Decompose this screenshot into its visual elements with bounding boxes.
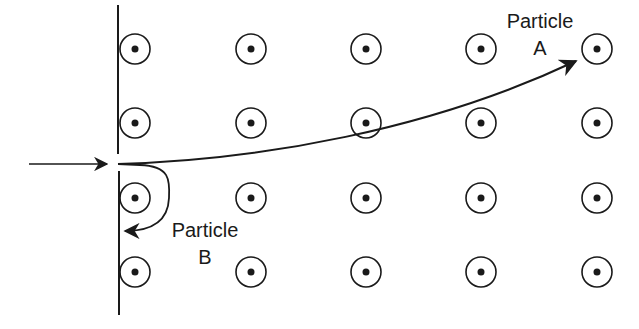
field-out-of-page-icon: [236, 183, 266, 213]
field-out-of-page-icon: [120, 108, 150, 138]
field-out-of-page-icon: [582, 34, 612, 64]
field-out-of-page-icon: [120, 34, 150, 64]
magnetic-field-diagram: Particle A Particle B: [0, 0, 639, 329]
particle-b-label-line1: Particle: [165, 220, 245, 240]
particle-b-trajectory: [118, 164, 169, 231]
particle-a-label-line2: A: [500, 38, 580, 58]
field-out-of-page-icon: [351, 34, 381, 64]
field-out-of-page-icon: [466, 257, 496, 287]
field-out-of-page-icon: [351, 257, 381, 287]
field-out-of-page-icon: [236, 108, 266, 138]
particle-b-label: Particle B: [165, 220, 245, 267]
field-out-of-page-icon: [582, 257, 612, 287]
field-out-of-page-icon: [582, 108, 612, 138]
field-out-of-page-icon: [120, 257, 150, 287]
particle-a-trajectory: [118, 61, 576, 164]
particle-a-label-line1: Particle: [500, 11, 580, 31]
field-out-of-page-icon: [466, 183, 496, 213]
field-out-of-page-icon: [351, 108, 381, 138]
field-out-of-page-icon: [120, 183, 150, 213]
field-out-of-page-icon: [582, 183, 612, 213]
field-out-of-page-icon: [236, 34, 266, 64]
particle-b-label-line2: B: [165, 247, 245, 267]
field-out-of-page-icon: [466, 34, 496, 64]
particle-a-label: Particle A: [500, 11, 580, 58]
field-out-of-page-icon: [351, 183, 381, 213]
field-out-of-page-icon: [466, 108, 496, 138]
